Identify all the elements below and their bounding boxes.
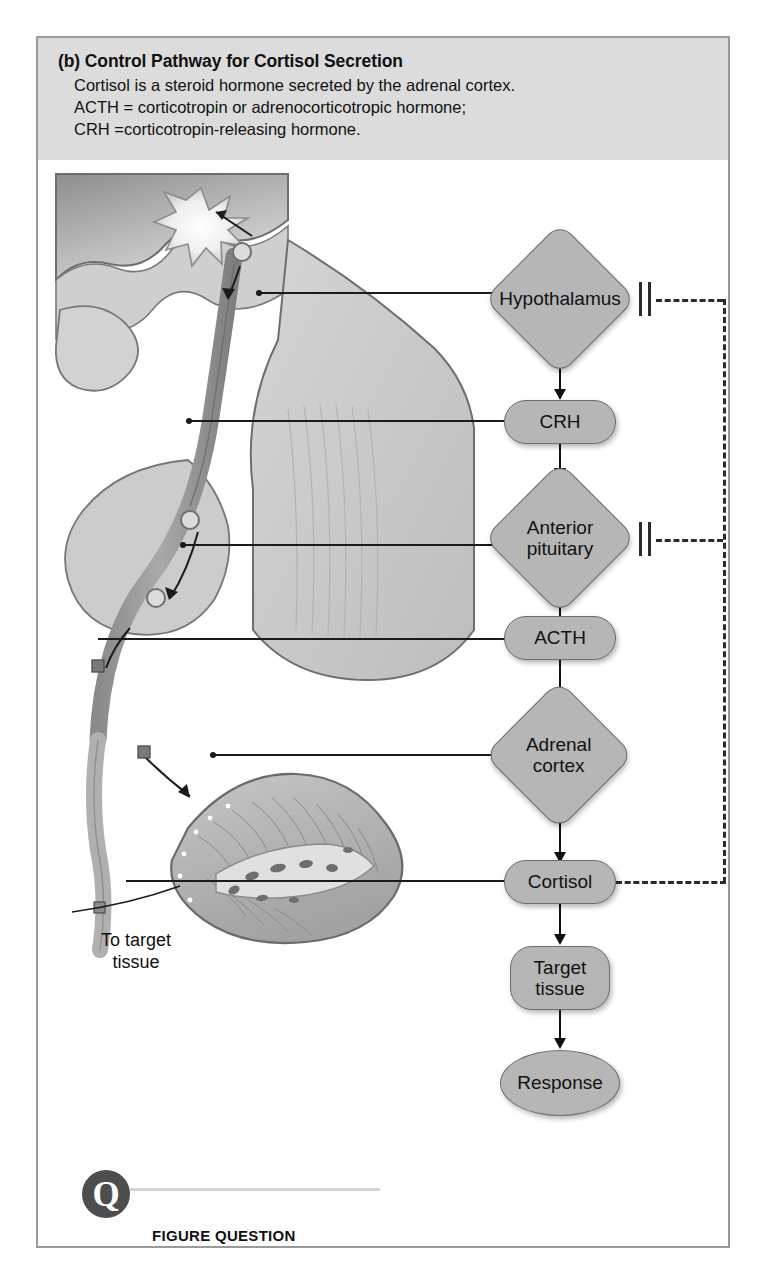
node-adrenal-cortex[interactable]: Adrenal cortex <box>484 680 634 830</box>
to-target-tissue-label: To target tissue <box>66 930 206 973</box>
feedback-dash-from-cortisol <box>616 881 726 884</box>
node-hypothalamus-label: Hypothalamus <box>499 288 620 309</box>
caption-line-3: CRH =corticotropin-releasing hormone. <box>74 119 712 141</box>
caption-line-1: Cortisol is a steroid hormone secreted b… <box>74 75 712 97</box>
leader-line-acth <box>98 638 506 640</box>
leader-line-hypothalamus <box>260 292 506 294</box>
figure-question-heading: FIGURE QUESTION <box>152 1227 296 1244</box>
node-anterior-pituitary-line-2: pituitary <box>527 538 594 559</box>
node-acth[interactable]: ACTH <box>504 616 616 660</box>
adrenal-gland-illustration <box>171 774 402 943</box>
adrenal-pointer-line <box>72 886 180 912</box>
brainstem-shape <box>251 240 474 680</box>
node-adrenal-cortex-line-2: cortex <box>533 755 585 776</box>
arrowhead-to-response <box>554 1038 566 1049</box>
leader-line-cortisol <box>126 880 506 882</box>
arrowhead-to-crh <box>554 389 566 400</box>
figure-frame: (b) Control Pathway for Cortisol Secreti… <box>36 36 730 1248</box>
node-adrenal-cortex-label: Adrenal cortex <box>526 734 592 777</box>
figure-caption-band: (b) Control Pathway for Cortisol Secreti… <box>38 38 728 160</box>
node-adrenal-cortex-line-1: Adrenal <box>526 734 592 755</box>
leader-dot-hypothalamus <box>256 290 262 296</box>
question-rule-divider <box>130 1188 380 1191</box>
feedback-dash-to-hypothalamus <box>656 299 723 302</box>
node-response[interactable]: Response <box>500 1050 620 1116</box>
node-acth-label: ACTH <box>534 627 586 648</box>
node-target-tissue-line-1: Target <box>534 957 587 978</box>
to-target-line-2: tissue <box>66 952 206 974</box>
leader-dot-anterior-pituitary <box>180 542 186 548</box>
node-cortisol-label: Cortisol <box>528 871 592 892</box>
hormone-molecule-acth <box>147 589 165 607</box>
hormone-marker-vessel <box>92 660 104 672</box>
to-target-line-1: To target <box>66 930 206 952</box>
feedback-dash-vertical-trunk <box>723 299 726 883</box>
sella-region <box>65 460 229 635</box>
arrowhead-to-target-tissue <box>554 934 566 945</box>
node-target-tissue-label: Target tissue <box>534 957 587 1000</box>
leader-line-adrenal-cortex <box>214 754 506 756</box>
caption-line-2: ACTH = corticotropin or adrenocorticotro… <box>74 97 712 119</box>
node-anterior-pituitary-line-1: Anterior <box>527 517 594 538</box>
leader-line-anterior-pituitary <box>184 544 506 546</box>
figure-artwork: To target tissue Hypothalamus CRH Anteri… <box>38 160 728 1250</box>
node-target-tissue-line-2: tissue <box>535 978 585 999</box>
descending-vessel <box>94 740 104 950</box>
leader-dot-adrenal-cortex <box>210 752 216 758</box>
figure-title: (b) Control Pathway for Cortisol Secreti… <box>58 51 712 72</box>
inhibition-bars-anterior-pituitary <box>639 522 651 556</box>
node-target-tissue[interactable]: Target tissue <box>510 946 610 1010</box>
hormone-molecule-crh <box>233 243 251 261</box>
node-crh-label: CRH <box>539 411 580 432</box>
inhibition-bars-hypothalamus <box>639 282 651 316</box>
node-anterior-pituitary[interactable]: Anterior pituitary <box>484 462 637 615</box>
node-hypothalamus[interactable]: Hypothalamus <box>484 223 637 376</box>
node-response-label: Response <box>517 1072 603 1093</box>
node-anterior-pituitary-label: Anterior pituitary <box>527 517 594 560</box>
question-badge-icon: Q <box>82 1170 130 1218</box>
hormone-molecule-portal <box>181 511 199 529</box>
node-crh[interactable]: CRH <box>504 400 616 444</box>
anatomy-illustration <box>38 160 478 960</box>
leader-dot-crh <box>186 418 192 424</box>
leader-line-crh <box>190 420 504 422</box>
feedback-dash-to-anterior-pituitary <box>656 539 723 542</box>
hormone-marker-cortisol <box>138 746 150 758</box>
node-cortisol[interactable]: Cortisol <box>504 860 616 904</box>
